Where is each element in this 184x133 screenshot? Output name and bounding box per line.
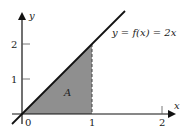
plot-svg: y x 2 1 0 1 2 y = f(x) = 2x A [0,0,184,133]
graph-figure: y x 2 1 0 1 2 y = f(x) = 2x A [0,0,184,133]
x-axis-arrow-icon [168,110,176,118]
function-label: y = f(x) = 2x [111,27,177,38]
y-axis-arrow-icon [18,12,26,20]
tick-label-y1: 1 [11,74,17,85]
area-label: A [63,87,71,98]
tick-label-y2: 2 [11,39,17,50]
tick-label-x2: 2 [159,117,165,128]
tick-label-x0: 0 [25,117,31,128]
x-axis-label: x [174,100,180,111]
y-axis-label: y [28,10,35,21]
tick-label-x1: 1 [89,117,95,128]
